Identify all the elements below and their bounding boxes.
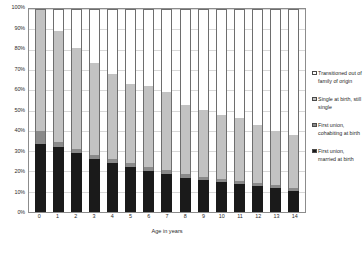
bar-segment[interactable] — [143, 9, 154, 86]
stacked-bar-chart: 0%10%20%30%40%50%60%70%80%90%100% 012345… — [0, 0, 363, 262]
x-axis-tick: 2 — [70, 214, 81, 226]
bar-column[interactable] — [180, 9, 191, 212]
bar-segment[interactable] — [252, 9, 263, 125]
x-axis-title: Age in years — [28, 228, 306, 234]
bar-column[interactable] — [53, 9, 64, 212]
x-axis-tick: 14 — [289, 214, 300, 226]
bar-segment[interactable] — [252, 186, 263, 212]
bar-column[interactable] — [252, 9, 263, 212]
bar-segment[interactable] — [288, 135, 299, 188]
bar-segment[interactable] — [216, 182, 227, 212]
x-axis: 01234567891011121314 — [28, 214, 306, 226]
y-axis: 0%10%20%30%40%50%60%70%80%90%100% — [0, 8, 27, 213]
bar-segment[interactable] — [198, 9, 209, 109]
bar-segment[interactable] — [107, 74, 118, 159]
legend-swatch-icon — [312, 149, 317, 154]
bar-column[interactable] — [198, 9, 209, 212]
bar-segment[interactable] — [180, 105, 191, 174]
legend-item[interactable]: Transitioned out of family of origin — [312, 70, 363, 85]
bar-segment[interactable] — [252, 125, 263, 183]
bar-segment[interactable] — [180, 9, 191, 105]
bar-segment[interactable] — [234, 184, 245, 212]
y-axis-tick: 70% — [15, 67, 26, 72]
bar-segment[interactable] — [125, 167, 136, 212]
bar-segment[interactable] — [89, 63, 100, 155]
bar-segment[interactable] — [270, 131, 281, 185]
bar-column[interactable] — [107, 9, 118, 212]
bar-segment[interactable] — [198, 110, 209, 177]
bar-segment[interactable] — [107, 163, 118, 212]
bar-segment[interactable] — [198, 180, 209, 212]
bar-segment[interactable] — [35, 9, 46, 131]
x-axis-tick: 0 — [34, 214, 45, 226]
bar-column[interactable] — [288, 9, 299, 212]
x-axis-tick: 12 — [253, 214, 264, 226]
legend-swatch-icon — [312, 123, 317, 128]
y-axis-tick: 60% — [15, 87, 26, 92]
bar-segment[interactable] — [53, 9, 64, 31]
bar-segment[interactable] — [89, 9, 100, 63]
bar-segment[interactable] — [288, 191, 299, 212]
legend-item[interactable]: First union, cohabiting at birth — [312, 122, 363, 137]
legend-item[interactable]: First union, married at birth — [312, 148, 363, 163]
bar-segment[interactable] — [107, 9, 118, 74]
bar-segment[interactable] — [53, 31, 64, 142]
bar-segment[interactable] — [89, 159, 100, 212]
bar-segment[interactable] — [71, 9, 82, 48]
bar-column[interactable] — [71, 9, 82, 212]
x-axis-tick: 13 — [271, 214, 282, 226]
bar-segment[interactable] — [161, 9, 172, 92]
bar-segment[interactable] — [143, 86, 154, 167]
x-axis-tick: 4 — [107, 214, 118, 226]
legend-swatch-icon — [312, 71, 317, 76]
chart-legend: Transitioned out of family of originSing… — [312, 70, 363, 174]
y-axis-tick: 80% — [15, 46, 26, 51]
bar-segment[interactable] — [143, 171, 154, 212]
bar-segment[interactable] — [216, 115, 227, 179]
y-axis-tick: 10% — [15, 190, 26, 195]
bar-column[interactable] — [216, 9, 227, 212]
y-axis-tick: 30% — [15, 149, 26, 154]
bar-segment[interactable] — [180, 178, 191, 213]
x-axis-tick: 8 — [180, 214, 191, 226]
bar-column[interactable] — [35, 9, 46, 212]
x-axis-tick: 3 — [88, 214, 99, 226]
bar-column[interactable] — [270, 9, 281, 212]
y-axis-tick: 90% — [15, 26, 26, 31]
bar-segment[interactable] — [35, 144, 46, 212]
bar-segment[interactable] — [288, 9, 299, 135]
legend-item[interactable]: Single at birth, still single — [312, 96, 363, 111]
bar-column[interactable] — [234, 9, 245, 212]
plot-area — [28, 8, 306, 213]
bar-segment[interactable] — [35, 131, 46, 144]
bar-group — [29, 9, 305, 212]
bar-segment[interactable] — [125, 9, 136, 84]
legend-label: Transitioned out of family of origin — [318, 70, 363, 85]
legend-swatch-icon — [312, 97, 317, 102]
bar-segment[interactable] — [71, 48, 82, 150]
bar-column[interactable] — [89, 9, 100, 212]
y-axis-tick: 20% — [15, 169, 26, 174]
bar-segment[interactable] — [270, 188, 281, 212]
y-axis-tick: 100% — [12, 5, 25, 10]
bar-segment[interactable] — [234, 118, 245, 181]
bar-segment[interactable] — [270, 9, 281, 131]
bar-segment[interactable] — [53, 147, 64, 212]
x-axis-tick: 11 — [235, 214, 246, 226]
legend-label: First union, married at birth — [318, 148, 363, 163]
y-axis-tick: 50% — [15, 108, 26, 113]
x-axis-tick: 6 — [143, 214, 154, 226]
bar-segment[interactable] — [71, 153, 82, 212]
legend-label: Single at birth, still single — [318, 96, 363, 111]
bar-segment[interactable] — [216, 9, 227, 115]
bar-segment[interactable] — [234, 9, 245, 118]
bar-segment[interactable] — [161, 92, 172, 170]
bar-column[interactable] — [143, 9, 154, 212]
x-axis-tick: 5 — [125, 214, 136, 226]
x-axis-tick: 9 — [198, 214, 209, 226]
bar-segment[interactable] — [125, 84, 136, 163]
x-axis-tick: 10 — [216, 214, 227, 226]
bar-segment[interactable] — [161, 174, 172, 212]
bar-column[interactable] — [125, 9, 136, 212]
bar-column[interactable] — [161, 9, 172, 212]
